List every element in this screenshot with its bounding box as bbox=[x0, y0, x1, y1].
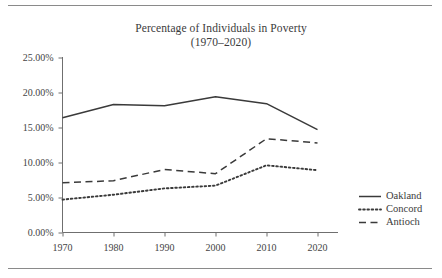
series-line-antioch bbox=[63, 139, 318, 183]
plot-area bbox=[0, 0, 442, 278]
legend-label: Concord bbox=[386, 203, 422, 215]
legend-swatch-dashed bbox=[358, 216, 382, 228]
y-axis-tick-label: 0.00% bbox=[0, 227, 54, 238]
y-axis-tick-label: 5.00% bbox=[0, 192, 54, 203]
y-axis-tick-label: 20.00% bbox=[0, 87, 54, 98]
legend-item-antioch[interactable]: Antioch bbox=[358, 215, 440, 228]
series-lines bbox=[63, 97, 318, 200]
bottom-divider bbox=[8, 268, 432, 269]
x-axis-ticks bbox=[63, 233, 318, 237]
y-axis-ticks bbox=[59, 58, 63, 233]
x-axis-tick-label: 1990 bbox=[141, 242, 189, 253]
legend-label: Oakland bbox=[386, 190, 422, 202]
y-axis-tick-label: 15.00% bbox=[0, 122, 54, 133]
y-axis-tick-label: 10.00% bbox=[0, 157, 54, 168]
legend-item-concord[interactable]: Concord bbox=[358, 202, 440, 215]
y-axis-tick-label: 25.00% bbox=[0, 52, 54, 63]
series-line-oakland bbox=[63, 97, 318, 130]
legend-label: Antioch bbox=[386, 216, 420, 228]
figure-container: Percentage of Individuals in Poverty (19… bbox=[0, 0, 442, 278]
x-axis-tick-label: 1970 bbox=[39, 242, 87, 253]
legend-swatch-dotted bbox=[358, 203, 382, 215]
x-axis-tick-label: 2000 bbox=[192, 242, 240, 253]
legend-swatch-solid bbox=[358, 190, 382, 202]
x-axis-tick-label: 1980 bbox=[90, 242, 138, 253]
series-line-concord bbox=[63, 165, 318, 199]
x-axis-tick-label: 2010 bbox=[243, 242, 291, 253]
legend-item-oakland[interactable]: Oakland bbox=[358, 189, 440, 202]
axis-lines bbox=[63, 57, 339, 233]
chart-legend: OaklandConcordAntioch bbox=[358, 189, 440, 228]
x-axis-tick-label: 2020 bbox=[294, 242, 342, 253]
